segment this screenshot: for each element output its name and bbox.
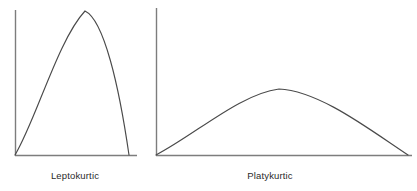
kurtosis-figure: Leptokurtic Platykurtic xyxy=(0,0,417,191)
leptokurtic-curve xyxy=(15,11,129,155)
panel-platykurtic xyxy=(156,8,412,156)
kurtosis-diagram xyxy=(0,0,417,191)
leptokurtic-caption: Leptokurtic xyxy=(0,170,150,181)
panel-leptokurtic xyxy=(15,10,137,156)
platykurtic-curve xyxy=(156,89,408,155)
platykurtic-caption: Platykurtic xyxy=(190,170,350,181)
